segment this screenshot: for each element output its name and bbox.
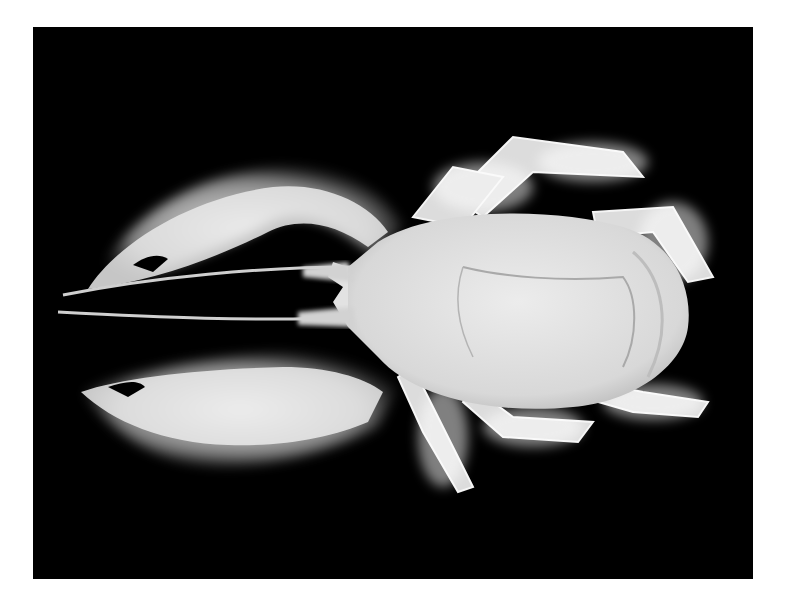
photo: Photograph of a white hairy yeti crab (K… — [33, 27, 753, 579]
yeti-crab-illustration — [33, 27, 753, 579]
lower-claw — [81, 352, 398, 467]
